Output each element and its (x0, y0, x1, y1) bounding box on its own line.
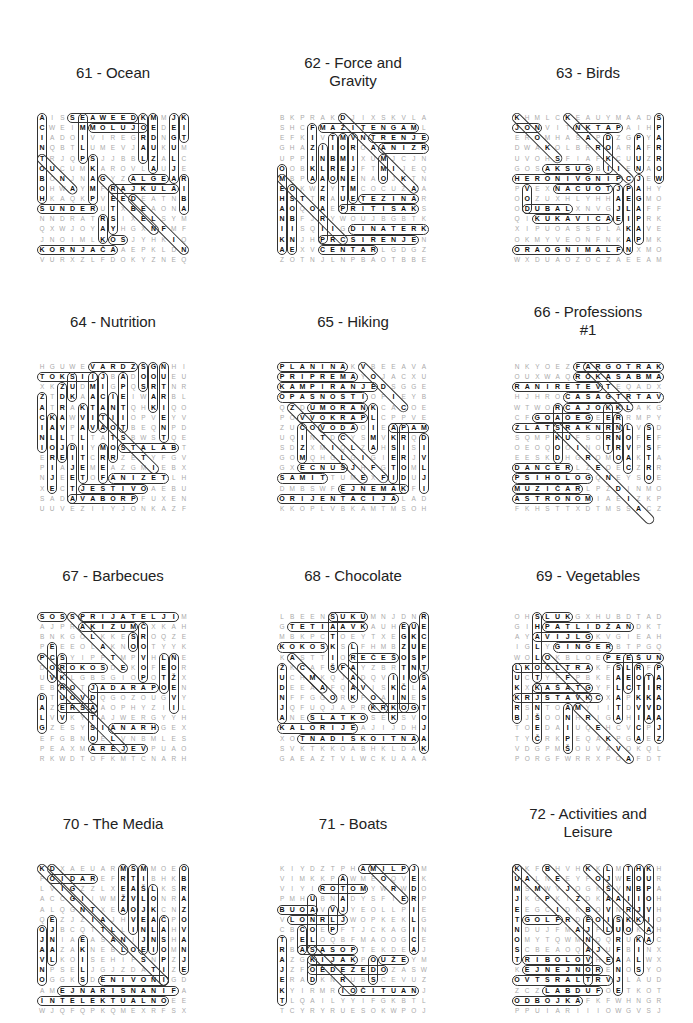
grid-letter: S (277, 443, 287, 453)
grid-letter: H (532, 504, 542, 514)
grid-letter: D (644, 382, 654, 392)
grid-letter: F (522, 413, 532, 423)
found-word-highlight (138, 362, 148, 392)
grid-letter: O (522, 653, 532, 663)
found-word-highlight (348, 224, 429, 234)
grid-letter: P (169, 915, 179, 925)
grid-letter: X (409, 372, 419, 382)
grid-letter: N (287, 713, 297, 723)
grid-letter: V (409, 362, 419, 372)
grid-letter: N (179, 683, 189, 693)
grid-letter: T (328, 473, 338, 483)
grid-letter: U (37, 673, 47, 683)
grid-letter: A (348, 744, 358, 754)
grid-letter: Q (522, 433, 532, 443)
grid-letter: A (388, 372, 398, 382)
grid-letter: X (542, 184, 552, 194)
grid-letter: Z (368, 663, 378, 673)
grid-letter: T (388, 255, 398, 265)
grid-letter: U (522, 372, 532, 382)
found-word-highlight (77, 403, 87, 484)
grid-letter: I (593, 703, 603, 713)
grid-letter: X (603, 693, 613, 703)
grid-letter: B (613, 612, 623, 622)
found-word-highlight (388, 423, 398, 484)
grid-letter: H (287, 123, 297, 133)
grid-letter: B (623, 945, 633, 955)
grid-letter: R (328, 986, 338, 996)
grid-letter: T (409, 214, 419, 224)
grid-letter: V (88, 133, 98, 143)
grid-letter: F (512, 504, 522, 514)
grid-letter: E (419, 403, 429, 413)
grid-letter: O (108, 703, 118, 713)
grid-letter: E (57, 723, 67, 733)
grid-letter: D (522, 744, 532, 754)
found-word-highlight (542, 612, 572, 622)
grid-letter: X (148, 622, 158, 632)
grid-letter: D (522, 925, 532, 935)
grid-letter: A (98, 703, 108, 713)
grid-letter: K (78, 194, 88, 204)
grid-letter: B (378, 214, 388, 224)
grid-letter: P (593, 484, 603, 494)
found-word-highlight (573, 372, 664, 382)
grid-letter: F (409, 484, 419, 494)
grid-letter: P (37, 642, 47, 652)
grid-letter: B (37, 632, 47, 642)
grid-letter: K (593, 996, 603, 1006)
grid-letter: B (419, 392, 429, 402)
grid-letter: A (553, 372, 563, 382)
grid-letter: L (409, 683, 419, 693)
grid-letter: B (573, 143, 583, 153)
grid-letter: N (128, 734, 138, 744)
puzzle-title: 65 - Hiking (238, 313, 468, 331)
grid-letter: K (634, 744, 644, 754)
grid-letter: Y (644, 965, 654, 975)
grid-letter: W (512, 255, 522, 265)
grid-letter: Q (128, 382, 138, 392)
grid-letter: I (118, 673, 128, 683)
grid-letter: E (358, 905, 368, 915)
grid-letter: B (399, 996, 409, 1006)
grid-letter: L (419, 123, 429, 133)
grid-letter: B (128, 154, 138, 164)
grid-letter: P (88, 653, 98, 663)
grid-letter: H (603, 194, 613, 204)
found-word-highlight (633, 663, 643, 744)
found-word-highlight (37, 392, 47, 453)
grid-letter: R (307, 986, 317, 996)
grid-letter: B (118, 154, 128, 164)
grid-letter: W (613, 1006, 623, 1016)
grid-letter: G (169, 975, 179, 985)
grid-letter: U (47, 255, 57, 265)
grid-letter: P (307, 504, 317, 514)
grid-letter: Q (644, 744, 654, 754)
found-word-highlight (118, 372, 128, 433)
found-word-highlight (57, 382, 67, 463)
puzzle-title: 71 - Boats (238, 815, 468, 833)
grid-letter: N (78, 734, 88, 744)
grid-letter: Z (277, 423, 287, 433)
grid-letter: Y (328, 184, 338, 194)
grid-letter: R (148, 1006, 158, 1016)
grid-letter: O (593, 443, 603, 453)
grid-letter: E (654, 473, 664, 483)
grid-letter: T (328, 754, 338, 764)
found-word-highlight (603, 653, 664, 663)
found-word-highlight (37, 693, 47, 734)
grid-letter: H (47, 184, 57, 194)
grid-letter: O (573, 235, 583, 245)
grid-letter: E (522, 905, 532, 915)
grid-letter: P (358, 955, 368, 965)
grid-letter: Z (148, 255, 158, 265)
grid-letter: J (419, 986, 429, 996)
grid-letter: D (287, 443, 297, 453)
grid-letter: E (169, 723, 179, 733)
puzzle-grid: PLANINAKVBEEAVAPRIPREMAYOJACXUKAMPIRANJE… (277, 362, 429, 514)
grid-letter: N (169, 382, 179, 392)
grid-letter: T (654, 622, 664, 632)
grid-letter: P (277, 413, 287, 423)
grid-letter: A (118, 245, 128, 255)
grid-letter: X (277, 734, 287, 744)
